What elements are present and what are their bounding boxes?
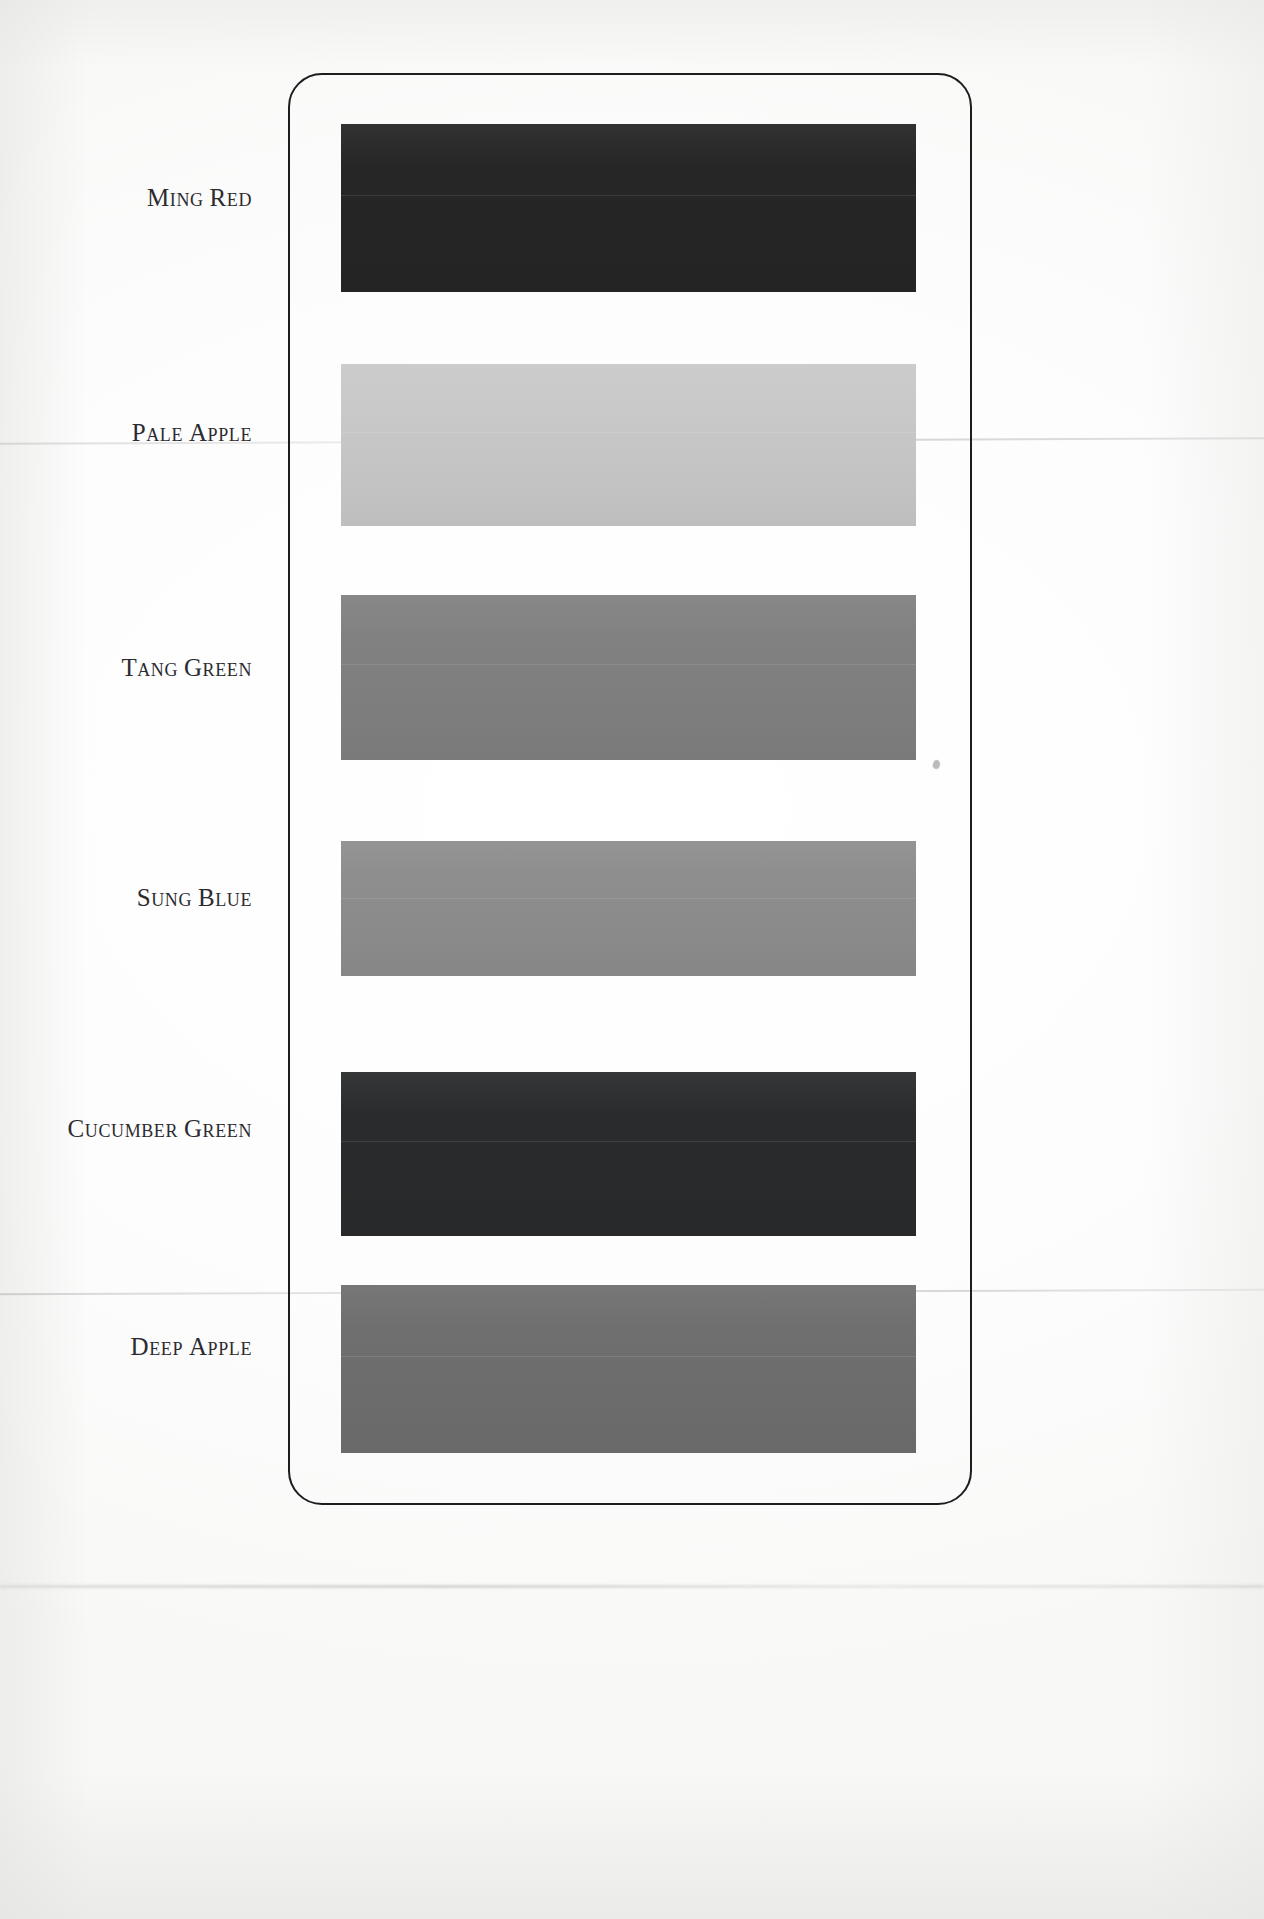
- color-swatch: [341, 841, 916, 976]
- page-edge-shadow-right: [1144, 0, 1264, 1919]
- color-swatch: [341, 364, 916, 526]
- paper-speck: [932, 759, 941, 770]
- page-edge-shadow-left: [0, 0, 90, 1919]
- swatch-label: DEEP APPLE: [0, 1333, 252, 1361]
- color-swatch: [341, 1285, 916, 1453]
- swatch-fill: [341, 1072, 916, 1236]
- page-edge-shadow-top: [0, 0, 1264, 70]
- swatch-fill: [341, 841, 916, 976]
- scanned-page: MING REDPALE APPLETANG GREENSUNG BLUECUC…: [0, 0, 1264, 1919]
- color-swatch: [341, 124, 916, 292]
- page-edge-shadow-bottom: [0, 1769, 1264, 1919]
- scan-crease: [0, 1585, 1264, 1588]
- swatch-label: CUCUMBER GREEN: [0, 1115, 252, 1143]
- color-swatch: [341, 595, 916, 760]
- swatch-fill: [341, 364, 916, 526]
- swatch-fill: [341, 124, 916, 292]
- swatch-label: TANG GREEN: [0, 654, 252, 682]
- color-swatch: [341, 1072, 916, 1236]
- swatch-label: MING RED: [0, 184, 252, 212]
- swatch-fill: [341, 1285, 916, 1453]
- swatch-label: SUNG BLUE: [0, 884, 252, 912]
- swatch-fill: [341, 595, 916, 760]
- swatch-label: PALE APPLE: [0, 419, 252, 447]
